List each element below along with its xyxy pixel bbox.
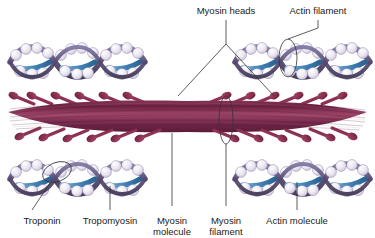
leader-actin-filament	[288, 20, 318, 39]
myosin-filament-body	[8, 101, 367, 133]
leader-myosin-heads	[178, 20, 274, 96]
label-myosin-molecule-line2: molecule	[153, 226, 191, 237]
label-tropomyosin: Tropomyosin	[83, 215, 138, 226]
actin-filament-bottom-left	[10, 160, 145, 197]
label-myosin-heads: Myosin heads	[197, 5, 256, 16]
label-actin-molecule: Actin molecule	[266, 215, 328, 226]
label-actin-filament: Actin filament	[289, 5, 346, 16]
label-myosin-molecule-line1: Myosin	[157, 215, 187, 226]
actin-filament-top-right	[235, 43, 370, 80]
actin-filament-top-left	[10, 43, 145, 80]
diagram-canvas: Myosin heads Actin filament Troponin Tro…	[0, 0, 375, 238]
actin-filament-bottom-right	[235, 160, 370, 197]
label-myosin-filament-line2: filament	[209, 226, 243, 237]
myofilament-diagram: Myosin heads Actin filament Troponin Tro…	[0, 0, 375, 238]
label-troponin: Troponin	[23, 215, 60, 226]
label-myosin-filament-line1: Myosin	[211, 215, 241, 226]
